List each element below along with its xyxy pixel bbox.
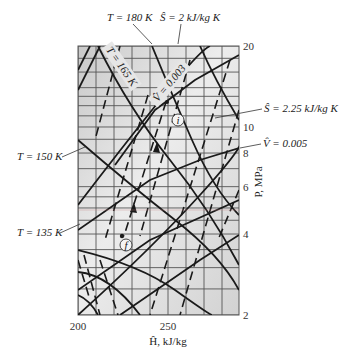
svg-text:20: 20 [243, 40, 255, 52]
y-axis-label: P, MPa [252, 166, 264, 197]
svg-text:T = 135 K: T = 135 K [17, 226, 63, 238]
point-i-marker [165, 100, 169, 104]
svg-text:T = 180 K: T = 180 K [107, 11, 153, 23]
label-v0005: V̂ = 0.005 [240, 137, 308, 149]
svg-text:i: i [176, 114, 179, 126]
svg-text:Ŝ = 2 kJ/kg K: Ŝ = 2 kJ/kg K [160, 11, 221, 23]
label-t180: T = 180 K [107, 11, 153, 44]
pressure-enthalpy-chart: i f T = 165 K V̂ = 0.003 T = 180 K Ŝ = 2… [0, 0, 340, 358]
svg-text:6: 6 [243, 181, 249, 193]
svg-text:Ŝ = 2.25 kJ/kg K: Ŝ = 2.25 kJ/kg K [264, 102, 338, 114]
svg-text:250: 250 [160, 320, 177, 332]
svg-text:4: 4 [243, 228, 249, 240]
svg-text:8: 8 [243, 147, 249, 159]
label-t150: T = 150 K [17, 147, 85, 162]
label-s2: Ŝ = 2 kJ/kg K [160, 11, 221, 44]
svg-text:10: 10 [243, 121, 255, 133]
label-t135: T = 135 K [17, 224, 80, 238]
svg-text:V̂ = 0.005: V̂ = 0.005 [263, 137, 308, 149]
svg-text:2: 2 [243, 309, 249, 321]
point-f-marker [120, 234, 124, 238]
x-axis-ticks: 200 250 [70, 320, 177, 332]
x-axis-label: Ĥ, kJ/kg [149, 335, 187, 347]
svg-text:200: 200 [70, 320, 87, 332]
svg-text:T = 150 K: T = 150 K [17, 150, 63, 162]
state-point-i: i [172, 114, 184, 126]
state-point-f: f [120, 239, 132, 251]
